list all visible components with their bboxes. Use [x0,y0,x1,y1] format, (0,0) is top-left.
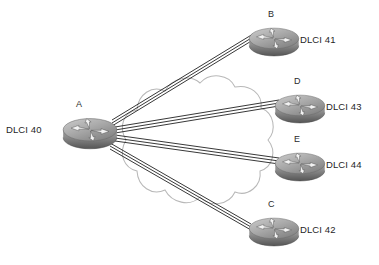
link-a-b[interactable] [112,34,253,126]
link-a-d[interactable] [115,100,279,133]
router-e-letter: E [294,134,300,144]
frame-relay-cloud [122,76,273,204]
router-a-icon[interactable] [63,119,117,149]
router-c-icon[interactable] [249,218,298,246]
nodes-layer [63,28,325,246]
router-b-icon[interactable] [249,28,298,56]
link-a-c[interactable] [110,143,251,230]
router-d-icon[interactable] [275,95,324,123]
router-e-dlci-label: DLCI 44 [326,159,362,170]
router-e-icon[interactable] [275,153,324,181]
router-a-dlci-label: DLCI 40 [6,124,42,135]
router-b-letter: B [268,9,274,19]
router-a-letter: A [76,99,82,109]
router-b-dlci-label: DLCI 41 [300,34,336,45]
network-diagram: A DLCI 40 B DLCI 41 D DLCI 43 E DLCI 44 … [0,0,379,265]
router-c-dlci-label: DLCI 42 [300,224,336,235]
router-c-letter: C [268,199,275,209]
router-d-dlci-label: DLCI 43 [326,101,362,112]
router-d-letter: D [294,76,301,86]
